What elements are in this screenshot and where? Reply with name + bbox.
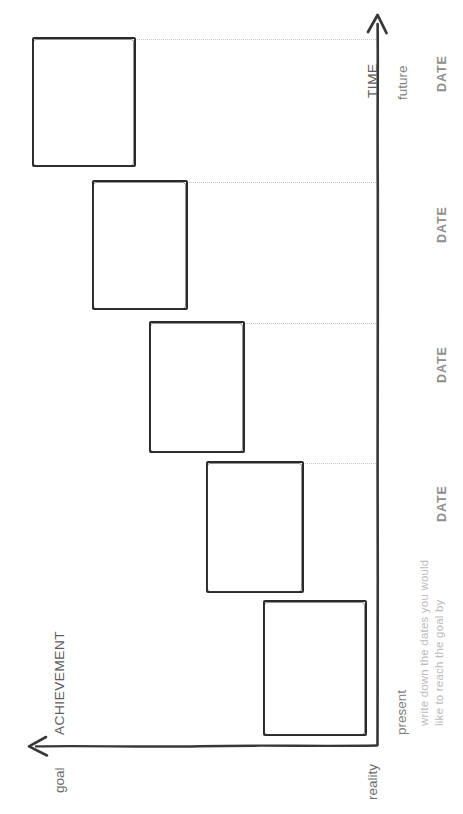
achievement-axis-line [36, 746, 377, 747]
hint-line-2: like to reach the goal by [434, 600, 446, 726]
gridline-3 [243, 323, 378, 324]
date-label-2[interactable]: DATE [436, 206, 449, 243]
milestone-box-1[interactable] [263, 600, 367, 736]
diagram-canvas: TIME future present DATE DATE DATE DATE … [0, 0, 463, 814]
date-label-4[interactable]: DATE [436, 485, 449, 522]
milestone-box-2[interactable] [206, 461, 304, 593]
milestone-box-3[interactable] [149, 321, 245, 453]
date-label-1[interactable]: DATE [436, 55, 449, 92]
gridline-1 [134, 39, 378, 40]
achievement-axis-arrowhead [29, 737, 47, 756]
time-axis-arrowhead [368, 15, 387, 33]
future-label: future [396, 65, 410, 100]
goal-label: goal [53, 767, 67, 793]
time-axis-label: TIME [366, 63, 380, 98]
hint-line-1: write down the dates you would [419, 560, 431, 726]
present-label: present [395, 690, 409, 735]
time-axis-line [377, 24, 378, 745]
gridline-4 [302, 463, 378, 464]
milestone-box-5[interactable] [32, 37, 136, 167]
gridline-2 [186, 182, 378, 183]
date-label-3[interactable]: DATE [436, 346, 449, 383]
reality-label: reality [366, 764, 380, 800]
milestone-box-4[interactable] [92, 180, 188, 310]
achievement-axis-label: ACHIEVEMENT [53, 631, 67, 735]
